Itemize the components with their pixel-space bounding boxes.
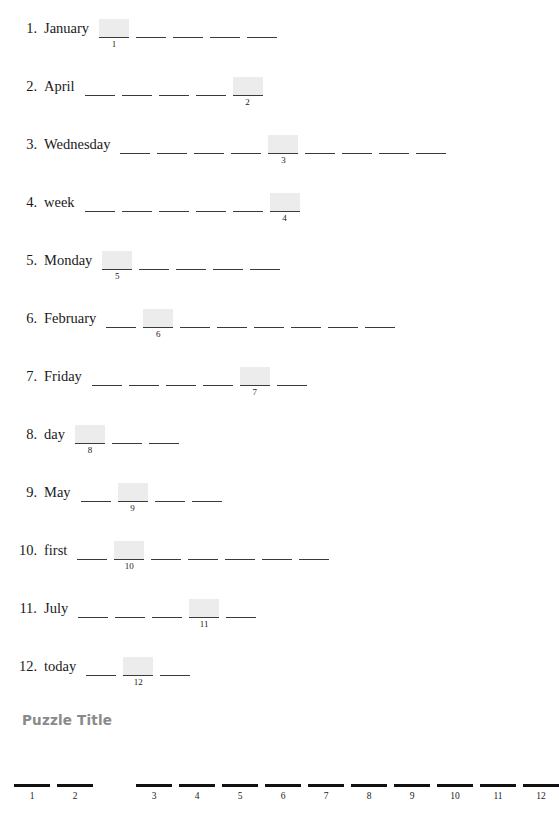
answer-slot[interactable]: 11 xyxy=(480,778,516,818)
clue-blank[interactable] xyxy=(254,306,284,340)
clue-word: January xyxy=(44,14,99,37)
clue-blank[interactable] xyxy=(291,306,321,340)
answer-slot[interactable]: 10 xyxy=(437,778,473,818)
answer-slot[interactable]: 7 xyxy=(308,778,344,818)
clue-blank[interactable] xyxy=(210,16,240,50)
clue-blank-highlighted[interactable]: 3 xyxy=(268,132,298,166)
clue-blank[interactable] xyxy=(188,538,218,572)
clue-blank[interactable] xyxy=(305,132,335,166)
blank-rule xyxy=(149,443,179,444)
blank-rule xyxy=(115,617,145,618)
clue-blank-group: 5 xyxy=(102,246,520,282)
clue-blank[interactable] xyxy=(233,190,263,224)
clue-blank[interactable] xyxy=(112,422,142,456)
clue-blank[interactable] xyxy=(122,190,152,224)
clue-blank[interactable] xyxy=(81,480,111,514)
clue-blank[interactable] xyxy=(159,190,189,224)
clue-blank-highlighted[interactable]: 5 xyxy=(102,248,132,282)
blank-rule xyxy=(196,211,226,212)
clue-blank[interactable] xyxy=(85,74,115,108)
clue-blank[interactable] xyxy=(379,132,409,166)
clue-blank-highlighted[interactable]: 9 xyxy=(118,480,148,514)
clue-blank-highlighted[interactable]: 1 xyxy=(99,16,129,50)
clue-blank[interactable] xyxy=(122,74,152,108)
clue-blank-highlighted[interactable]: 4 xyxy=(270,190,300,224)
answer-slot[interactable]: 8 xyxy=(351,778,387,818)
answer-slot[interactable]: 5 xyxy=(222,778,258,818)
blank-rule xyxy=(196,95,226,96)
clue-blank[interactable] xyxy=(342,132,372,166)
answer-slot[interactable]: 4 xyxy=(179,778,215,818)
clue-blank[interactable] xyxy=(92,364,122,398)
clue-blank[interactable] xyxy=(176,248,206,282)
clue-blank[interactable] xyxy=(231,132,261,166)
clue-blank[interactable] xyxy=(160,654,190,688)
clue-blank[interactable] xyxy=(149,422,179,456)
clue-blank[interactable] xyxy=(152,596,182,630)
answer-slot[interactable]: 1 xyxy=(14,778,50,818)
clue-blank-highlighted[interactable]: 7 xyxy=(240,364,270,398)
blank-rule xyxy=(159,211,189,212)
clue-blank[interactable] xyxy=(203,364,233,398)
clue-blank-highlighted[interactable]: 8 xyxy=(75,422,105,456)
clue-blank[interactable] xyxy=(226,596,256,630)
clue-blank[interactable] xyxy=(136,16,166,50)
answer-slot-rule xyxy=(394,784,430,787)
blank-rule xyxy=(365,327,395,328)
clue-blank[interactable] xyxy=(155,480,185,514)
blank-index-label: 8 xyxy=(75,445,105,456)
answer-slot[interactable]: 6 xyxy=(265,778,301,818)
clue-blank[interactable] xyxy=(225,538,255,572)
highlight-box xyxy=(268,135,298,153)
blank-rule xyxy=(247,37,277,38)
clue-blank[interactable] xyxy=(328,306,358,340)
highlight-box xyxy=(240,367,270,385)
clue-number: 7. xyxy=(14,362,44,385)
answer-slot[interactable]: 3 xyxy=(136,778,172,818)
clue-blank[interactable] xyxy=(173,16,203,50)
clue-blank[interactable] xyxy=(106,306,136,340)
clue-blank[interactable] xyxy=(196,74,226,108)
clue-blank[interactable] xyxy=(157,132,187,166)
clue-blank[interactable] xyxy=(120,132,150,166)
answer-slot[interactable]: 2 xyxy=(57,778,93,818)
blank-index-label: 12 xyxy=(123,677,153,688)
clue-blank[interactable] xyxy=(180,306,210,340)
clue-blank[interactable] xyxy=(196,190,226,224)
clue-blank[interactable] xyxy=(250,248,280,282)
clue-blank[interactable] xyxy=(365,306,395,340)
clue-blank[interactable] xyxy=(277,364,307,398)
clue-blank-highlighted[interactable]: 2 xyxy=(233,74,263,108)
blank-rule xyxy=(86,675,116,676)
clue-blank[interactable] xyxy=(247,16,277,50)
clue-blank[interactable] xyxy=(217,306,247,340)
clue-blank-highlighted[interactable]: 6 xyxy=(143,306,173,340)
answer-slot[interactable]: 9 xyxy=(394,778,430,818)
clue-blank[interactable] xyxy=(77,538,107,572)
clue-blank[interactable] xyxy=(159,74,189,108)
clue-blank-highlighted[interactable]: 10 xyxy=(114,538,144,572)
clue-blank[interactable] xyxy=(78,596,108,630)
clue-number: 9. xyxy=(14,478,44,501)
clue-blank[interactable] xyxy=(416,132,446,166)
clue-blank[interactable] xyxy=(262,538,292,572)
clue-blank[interactable] xyxy=(299,538,329,572)
clue-row: 10.first10 xyxy=(0,536,520,594)
answer-slot[interactable]: 12 xyxy=(523,778,559,818)
clue-blank[interactable] xyxy=(194,132,224,166)
clue-blank[interactable] xyxy=(85,190,115,224)
clue-blank-highlighted[interactable]: 12 xyxy=(123,654,153,688)
clue-blank[interactable] xyxy=(86,654,116,688)
clue-blank[interactable] xyxy=(129,364,159,398)
blank-rule xyxy=(328,327,358,328)
clue-number: 5. xyxy=(14,246,44,269)
clue-blank-highlighted[interactable]: 11 xyxy=(189,596,219,630)
answer-slot-label: 10 xyxy=(437,790,473,802)
clue-blank[interactable] xyxy=(192,480,222,514)
clue-blank[interactable] xyxy=(115,596,145,630)
clue-blank[interactable] xyxy=(151,538,181,572)
clue-blank[interactable] xyxy=(166,364,196,398)
clue-blank[interactable] xyxy=(213,248,243,282)
blank-rule xyxy=(139,269,169,270)
clue-blank[interactable] xyxy=(139,248,169,282)
